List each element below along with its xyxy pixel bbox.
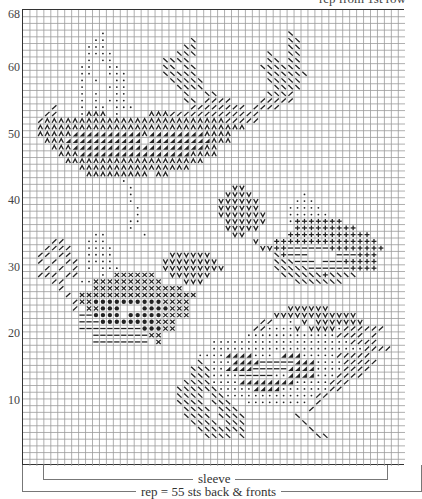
header-note: rep from 1st row bbox=[319, 0, 406, 7]
y-tick-30: 30 bbox=[2, 261, 20, 273]
y-tick-50: 50 bbox=[2, 128, 20, 140]
y-tick-10: 10 bbox=[2, 394, 20, 406]
chart-symbols bbox=[23, 10, 405, 466]
knitting-chart-grid bbox=[22, 9, 404, 465]
y-tick-20: 20 bbox=[2, 327, 20, 339]
y-tick-60: 60 bbox=[2, 61, 20, 73]
rep-label: rep = 55 sts back & fronts bbox=[136, 485, 281, 498]
y-tick-68: 68 bbox=[2, 8, 20, 20]
y-tick-40: 40 bbox=[2, 194, 20, 206]
